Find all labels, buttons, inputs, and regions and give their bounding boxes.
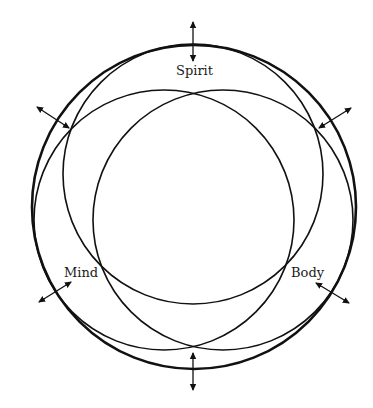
- label-mind: Mind: [64, 266, 98, 279]
- arrow-lower-left-icon: [39, 282, 71, 302]
- diagram-canvas: [0, 0, 373, 408]
- label-spirit: Spirit: [176, 64, 213, 77]
- mind-circle: [34, 90, 294, 350]
- mind-body-spirit-diagram: Spirit Mind Body: [0, 0, 373, 408]
- arrow-lower-right-icon: [316, 283, 349, 303]
- label-body: Body: [291, 266, 324, 279]
